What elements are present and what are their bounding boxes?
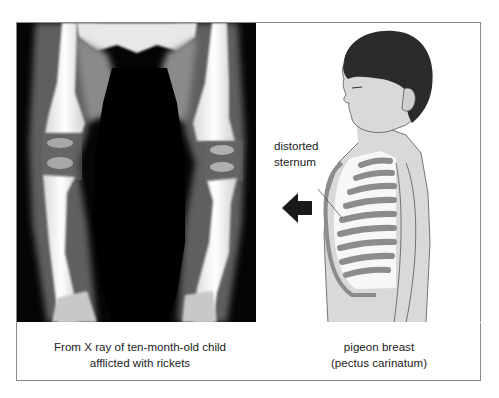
xray-image	[17, 23, 256, 322]
pigeon-breast-illustration	[256, 23, 481, 323]
pigeon-breast-caption: pigeon breast (pectus carinatum)	[279, 339, 479, 371]
xray-caption-line-2: afflicted with rickets	[17, 355, 263, 371]
label-line-2: sternum	[274, 154, 318, 170]
pigeon-caption-line-2: (pectus carinatum)	[279, 355, 479, 371]
label-line-1: distorted	[274, 138, 318, 154]
pigeon-caption-line-1: pigeon breast	[279, 339, 479, 355]
arrow-left-icon	[282, 193, 312, 223]
distorted-sternum-label: distorted sternum	[274, 138, 318, 170]
xray-caption-line-1: From X ray of ten-month-old child	[17, 339, 263, 355]
xray-caption: From X ray of ten-month-old child afflic…	[17, 339, 263, 371]
boy-figure	[256, 23, 481, 323]
figure-frame: distorted sternum From X ray of ten-mont…	[16, 22, 481, 381]
xray-illustration	[17, 23, 256, 322]
